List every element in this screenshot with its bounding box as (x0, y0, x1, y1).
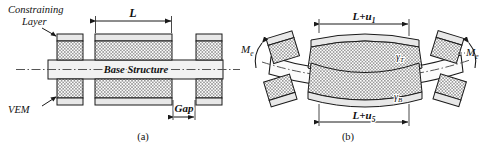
constraining-layer-right-top (196, 34, 222, 41)
vem-center-bottom (95, 79, 172, 98)
leader-arrow-vem (50, 97, 56, 102)
vem-right-top (196, 41, 222, 60)
patch-left-bottom (57, 79, 83, 105)
patch-left-top (57, 34, 83, 60)
label-moment-left: Me (240, 43, 254, 58)
diagram-svg: Base Structure L Gap Constraining Layer … (0, 0, 487, 147)
leader-arrow-constraining-layer (51, 31, 57, 36)
vem-right-bottom (196, 79, 222, 98)
caption-a: (a) (137, 131, 149, 143)
label-Lu1: L+u1 (352, 10, 376, 25)
label-constraining-layer-line2: Layer (21, 16, 47, 27)
patch-right-top (196, 34, 222, 60)
patch-center-top (95, 34, 172, 60)
label-moment-right: Me (465, 46, 479, 61)
caption-b: (b) (342, 131, 355, 143)
patch-center-bottom (95, 79, 172, 105)
label-L: L (128, 6, 136, 20)
constraining-layer-center-bottom (95, 98, 172, 105)
moment-arrow-left (255, 43, 262, 68)
label-gap: Gap (175, 102, 194, 114)
vem-center-top (95, 41, 172, 60)
base-structure-label: Base Structure (103, 64, 169, 75)
vem-left-bottom (57, 79, 83, 98)
panel-a: Base Structure L Gap Constraining Layer … (8, 4, 240, 143)
label-vem: VEM (8, 104, 31, 115)
constraining-layer-left-bottom (57, 98, 83, 105)
label-constraining-layer-line1: Constraining (8, 4, 63, 15)
vem-left-top (57, 41, 83, 60)
patch-right-bottom (196, 79, 222, 105)
constraining-layer-left-top (57, 34, 83, 41)
figure-container: Base Structure L Gap Constraining Layer … (0, 0, 487, 147)
constraining-layer-center-top (95, 34, 172, 41)
constraining-layer-right-bottom (196, 98, 222, 105)
label-Lu5: L+u5 (352, 109, 376, 124)
panel-b: L+u1 L+u5 γT γB Me Me (b) (240, 10, 479, 143)
